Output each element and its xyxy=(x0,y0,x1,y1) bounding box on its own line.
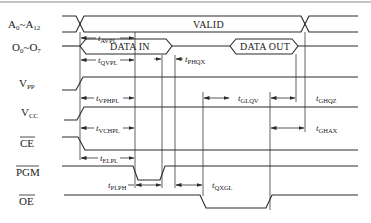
svg-text:O0~O7: O0~O7 xyxy=(12,41,41,55)
svg-text:tGHAX: tGHAX xyxy=(316,123,338,134)
timing-diagram: A0~A12 O0~O7 VPP VCC CE PGM OE xyxy=(0,0,371,223)
timing-tplph: tPLPH xyxy=(108,180,161,191)
svg-text:VPP: VPP xyxy=(19,77,35,91)
waveform-ce xyxy=(62,137,358,150)
waveform-oe xyxy=(64,195,358,208)
label-address: A0~A12 xyxy=(8,18,41,32)
timing-tglqv: tGLQV xyxy=(204,93,259,104)
svg-text:tGHQZ: tGHQZ xyxy=(316,93,337,104)
timing-tvphpl: tVPHPL xyxy=(81,93,134,104)
svg-text:CE: CE xyxy=(20,137,34,149)
svg-text:tPHQX: tPHQX xyxy=(185,54,206,65)
timing-tqxgl: tQXGL xyxy=(176,180,233,191)
waveform-address: VALID xyxy=(62,16,358,32)
bus-label-data-out: DATA OUT xyxy=(240,41,290,52)
waveform-vpp xyxy=(62,77,358,90)
timing-tghax: tGHAX xyxy=(271,123,338,134)
bus-label-valid: VALID xyxy=(193,19,224,30)
svg-text:tPLPH: tPLPH xyxy=(108,180,127,191)
label-vcc: VCC xyxy=(21,106,39,120)
svg-text:tQXGL: tQXGL xyxy=(212,180,233,191)
svg-text:tVPHPL: tVPHPL xyxy=(96,93,119,104)
svg-text:tAVPL: tAVPL xyxy=(98,33,117,44)
svg-text:OE: OE xyxy=(19,195,34,207)
label-data-bus: O0~O7 xyxy=(12,41,41,55)
label-pgm: PGM xyxy=(16,166,40,178)
svg-text:VCC: VCC xyxy=(21,106,39,120)
label-oe: OE xyxy=(19,195,35,207)
svg-text:PGM: PGM xyxy=(16,166,40,178)
svg-text:tGLQV: tGLQV xyxy=(238,93,259,104)
label-vpp: VPP xyxy=(19,77,35,91)
timing-telpl: tELPL xyxy=(81,153,134,164)
svg-text:A0~A12: A0~A12 xyxy=(8,18,41,32)
label-ce: CE xyxy=(20,137,35,149)
timing-tqvpl: tQVPL xyxy=(81,55,134,66)
timing-tvchpl: tVCHPL xyxy=(81,123,134,134)
svg-text:tVCHPL: tVCHPL xyxy=(96,123,120,134)
waveform-vcc xyxy=(64,107,358,120)
waveform-pgm xyxy=(62,166,358,180)
svg-text:tELPL: tELPL xyxy=(100,153,118,164)
timing-tghqz: tGHQZ xyxy=(271,93,337,104)
svg-text:tQVPL: tQVPL xyxy=(98,55,118,66)
